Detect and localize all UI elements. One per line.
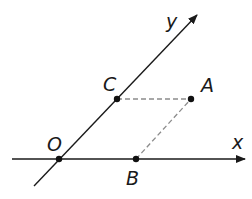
- y-axis-label: y: [165, 10, 178, 32]
- label-C: C: [103, 73, 117, 95]
- point-C: [114, 96, 120, 102]
- label-A: A: [199, 74, 214, 96]
- oblique-coordinate-diagram: y x A C A O B: [0, 0, 252, 199]
- dashed-segment-BA: [136, 99, 191, 159]
- label-O: O: [47, 133, 62, 155]
- label-B: B: [126, 167, 139, 189]
- x-axis-label: x: [231, 131, 244, 153]
- point-B: [133, 156, 139, 162]
- point-A: [188, 96, 194, 102]
- point-O: [56, 156, 62, 162]
